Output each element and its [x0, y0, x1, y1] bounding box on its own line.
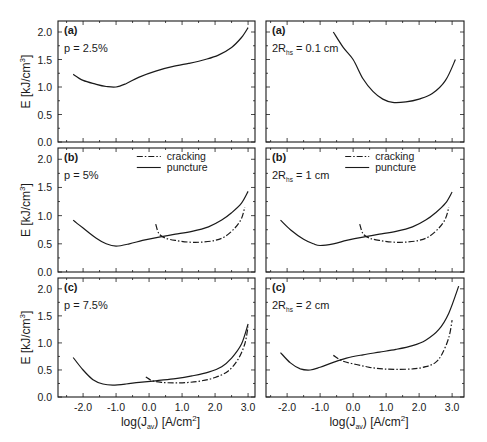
- series-puncture: [73, 191, 248, 246]
- x-tick-label: -2.0: [74, 401, 92, 413]
- x-tick-label: 3.0: [241, 401, 256, 413]
- panel-label: (a): [272, 24, 286, 36]
- x-axis-label: log(Jav) [A/cm2]: [329, 414, 408, 430]
- y-tick-label: 1.0: [37, 210, 52, 222]
- y-tick-label: 0.5: [37, 238, 52, 250]
- legend-label-puncture: puncture: [167, 161, 208, 173]
- series-puncture: [281, 192, 453, 246]
- panel-label: (b): [64, 151, 78, 163]
- y-tick-label: 1.5: [37, 181, 52, 193]
- panel-label: (b): [272, 151, 286, 163]
- panel-label: (a): [64, 24, 78, 36]
- y-tick-label: 0.5: [37, 364, 52, 376]
- x-tick-label: 0.0: [346, 401, 361, 413]
- y-tick-label: 0.0: [37, 136, 52, 148]
- plot-frame: [58, 278, 255, 397]
- x-tick-label: 3.0: [445, 401, 460, 413]
- series-cracking: [333, 320, 452, 369]
- x-tick-label: 2.0: [412, 401, 427, 413]
- plot-frame: [58, 148, 255, 272]
- panel-right-c: -2.0-1.00.01.02.03.0log(Jav) [A/cm2](c)2…: [266, 278, 464, 430]
- panel-left-c: 0.00.51.01.52.0E [kJ/cm3]-2.0-1.00.01.02…: [18, 278, 256, 430]
- panel-parameter: 2Rhs = 0.1 cm: [272, 42, 338, 56]
- x-tick-label: -1.0: [311, 401, 329, 413]
- y-tick-label: 1.5: [37, 54, 52, 66]
- x-axis-label: log(Jav) [A/cm2]: [121, 414, 200, 430]
- chart-svg: 0.00.51.01.52.0E [kJ/cm3](a)p = 2.5%(a)2…: [0, 0, 487, 442]
- panel-left-b: 0.00.51.01.52.0E [kJ/cm3](b)p = 5%cracki…: [18, 148, 255, 278]
- x-tick-label: 0.0: [142, 401, 157, 413]
- x-tick-label: 1.0: [175, 401, 190, 413]
- y-axis-label: E [kJ/cm3]: [18, 55, 33, 109]
- series-puncture: [333, 32, 455, 103]
- x-tick-label: 2.0: [208, 401, 223, 413]
- panel-parameter: p = 7.5%: [64, 299, 108, 311]
- y-tick-label: 2.0: [37, 283, 52, 295]
- panel-parameter: p = 2.5%: [64, 42, 108, 54]
- y-tick-label: 1.0: [37, 81, 52, 93]
- panel-right-a: (a)2Rhs = 0.1 cm: [266, 21, 464, 142]
- plot-frame: [266, 148, 464, 272]
- y-tick-label: 2.0: [37, 153, 52, 165]
- y-tick-label: 2.0: [37, 26, 52, 38]
- panel-left-a: 0.00.51.01.52.0E [kJ/cm3](a)p = 2.5%: [18, 21, 255, 148]
- x-tick-label: -2.0: [278, 401, 296, 413]
- panel-parameter: 2Rhs = 2 cm: [272, 299, 329, 313]
- y-tick-label: 0.5: [37, 109, 52, 121]
- x-tick-label: -1.0: [107, 401, 125, 413]
- legend-label-puncture: puncture: [375, 161, 416, 173]
- panel-label: (c): [272, 281, 286, 293]
- y-tick-label: 0.0: [37, 266, 52, 278]
- x-tick-label: 1.0: [379, 401, 394, 413]
- panel-label: (c): [64, 281, 78, 293]
- y-tick-label: 1.5: [37, 310, 52, 322]
- y-axis-label: E [kJ/cm3]: [18, 311, 33, 365]
- y-tick-label: 1.0: [37, 337, 52, 349]
- plot-frame: [266, 278, 464, 397]
- series-puncture: [73, 324, 248, 385]
- panel-parameter: p = 5%: [64, 169, 99, 181]
- y-axis-label: E [kJ/cm3]: [18, 183, 33, 237]
- y-tick-label: 0.0: [37, 391, 52, 403]
- panel-parameter: 2Rhs = 1 cm: [272, 169, 329, 183]
- series-puncture: [73, 28, 248, 88]
- panel-right-b: (b)2Rhs = 1 cmcrackingpuncture: [266, 148, 464, 272]
